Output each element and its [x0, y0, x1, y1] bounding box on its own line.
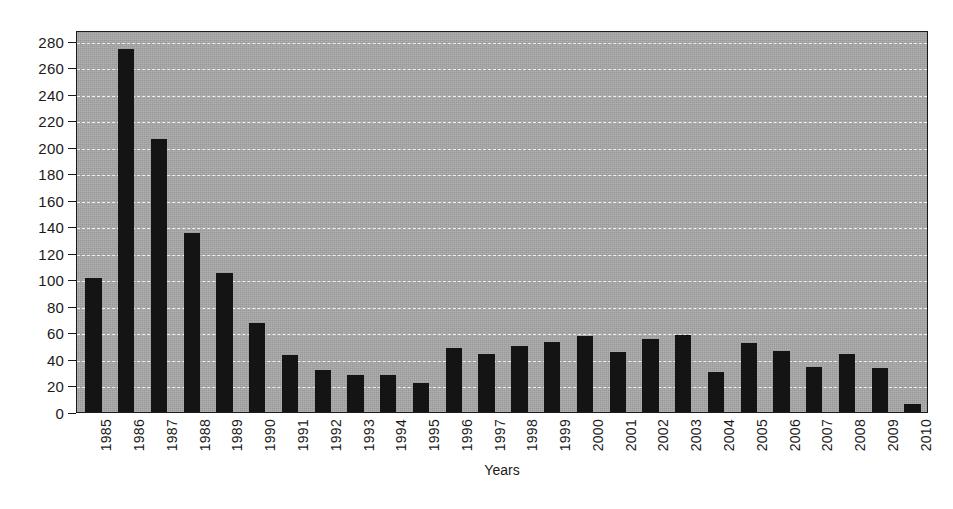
y-axis-tick-label: 220: [38, 113, 64, 130]
x-axis-tick-label: 1998: [524, 419, 540, 451]
y-axis: 020406080100120140160180200220240260280: [0, 0, 76, 509]
bar-chart: 020406080100120140160180200220240260280 …: [0, 0, 953, 509]
y-axis-tick: [68, 121, 76, 122]
y-axis-tick-label: 200: [38, 139, 64, 156]
y-axis-tick-label: 40: [47, 351, 64, 368]
x-axis-tick-label: 1986: [131, 419, 147, 451]
bar: [151, 139, 167, 412]
bar: [380, 375, 396, 412]
bar: [315, 370, 331, 412]
bar: [610, 352, 626, 412]
y-axis-tick: [68, 174, 76, 175]
y-axis-tick-label: 20: [47, 378, 64, 395]
y-axis-tick-label: 120: [38, 245, 64, 262]
bar: [904, 404, 920, 412]
x-axis-tick-label: 1993: [361, 419, 377, 451]
x-axis-tick-label: 2001: [623, 419, 639, 451]
y-axis-tick-label: 260: [38, 60, 64, 77]
bar: [708, 372, 724, 412]
y-axis-tick: [68, 280, 76, 281]
bar: [675, 335, 691, 412]
x-axis-tick-label: 1995: [426, 419, 442, 451]
y-axis-tick-label: 80: [47, 298, 64, 315]
x-axis-tick-label: 1988: [197, 419, 213, 451]
y-axis-tick-label: 280: [38, 33, 64, 50]
bar: [249, 323, 265, 412]
y-axis-tick-label: 140: [38, 219, 64, 236]
y-axis-tick: [68, 307, 76, 308]
bar: [741, 343, 757, 412]
x-axis-tick-label: 1989: [229, 419, 245, 451]
bar: [184, 233, 200, 412]
y-axis-tick: [68, 148, 76, 149]
y-axis-tick: [68, 42, 76, 43]
bar: [839, 354, 855, 412]
bar: [577, 336, 593, 412]
x-axis-tick-label: 2005: [754, 419, 770, 451]
bar: [216, 273, 232, 412]
x-axis-tick-label: 2009: [885, 419, 901, 451]
x-axis-tick-label: 1996: [459, 419, 475, 451]
y-axis-tick: [68, 254, 76, 255]
x-axis-tick-label: 1999: [557, 419, 573, 451]
bar: [282, 355, 298, 412]
bar: [478, 354, 494, 412]
bar: [446, 348, 462, 412]
x-axis-tick-label: 2000: [590, 419, 606, 451]
x-axis-tick-label: 1994: [393, 419, 409, 451]
x-axis-tick-label: 1985: [98, 419, 114, 451]
y-axis-tick-label: 0: [55, 405, 64, 422]
x-axis-tick-label: 2008: [852, 419, 868, 451]
plot-area: [76, 31, 928, 413]
x-axis-tick-label: 1987: [164, 419, 180, 451]
y-axis-tick-label: 60: [47, 325, 64, 342]
x-axis-tick-label: 1992: [328, 419, 344, 451]
bar: [773, 351, 789, 412]
y-axis-tick-label: 100: [38, 272, 64, 289]
y-axis-tick: [68, 333, 76, 334]
x-axis-tick-label: 2004: [721, 419, 737, 451]
bar: [642, 339, 658, 412]
x-axis-tick-label: 2006: [787, 419, 803, 451]
y-axis-tick: [68, 413, 76, 414]
y-axis-tick-label: 180: [38, 166, 64, 183]
y-axis-tick: [68, 68, 76, 69]
y-axis-tick-label: 240: [38, 86, 64, 103]
y-axis-tick: [68, 360, 76, 361]
x-axis-tick-label: 2002: [655, 419, 671, 451]
bar: [511, 346, 527, 412]
x-axis-tick-label: 1991: [295, 419, 311, 451]
bar: [872, 368, 888, 412]
x-axis-tick-label: 2003: [688, 419, 704, 451]
bar: [347, 375, 363, 412]
y-axis-tick: [68, 95, 76, 96]
bar: [413, 383, 429, 412]
x-axis: 1985198619871988198919901991199219931994…: [76, 413, 928, 509]
y-axis-tick: [68, 227, 76, 228]
bar: [85, 278, 101, 412]
bars-layer: [77, 32, 927, 412]
bar: [806, 367, 822, 412]
y-axis-tick-label: 160: [38, 192, 64, 209]
x-axis-title: Years: [76, 462, 928, 478]
x-axis-tick-label: 1990: [262, 419, 278, 451]
x-axis-tick-label: 2010: [918, 419, 934, 451]
y-axis-tick: [68, 386, 76, 387]
bar: [544, 342, 560, 412]
x-axis-tick-label: 2007: [819, 419, 835, 451]
bar: [118, 49, 134, 412]
y-axis-tick: [68, 201, 76, 202]
x-axis-tick-label: 1997: [492, 419, 508, 451]
